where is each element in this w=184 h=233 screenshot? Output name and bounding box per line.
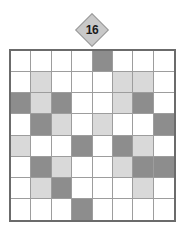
puzzle-container: 16 [0,0,184,233]
grid-cell[interactable] [72,114,92,135]
grid-cell[interactable] [11,51,31,72]
grid-cell[interactable] [93,114,113,135]
grid-cell[interactable] [133,136,153,157]
grid-cell[interactable] [31,178,51,199]
grid-cell[interactable] [113,93,133,114]
grid-cell[interactable] [52,51,72,72]
grid-cell[interactable] [72,199,92,220]
grid-cell[interactable] [93,51,113,72]
grid-cell[interactable] [31,93,51,114]
clue-marker-diamond: 16 [76,14,108,46]
grid-cell[interactable] [72,157,92,178]
grid-cell[interactable] [11,157,31,178]
grid-cells [11,51,174,220]
grid-cell[interactable] [154,93,174,114]
grid-cell[interactable] [31,72,51,93]
grid-cell[interactable] [31,114,51,135]
grid-cell[interactable] [31,136,51,157]
grid-cell[interactable] [93,93,113,114]
grid-cell[interactable] [154,114,174,135]
grid-cell[interactable] [113,72,133,93]
grid-cell[interactable] [72,72,92,93]
grid-cell[interactable] [154,199,174,220]
grid-cell[interactable] [133,93,153,114]
grid-cell[interactable] [154,72,174,93]
grid-cell[interactable] [133,72,153,93]
grid-cell[interactable] [72,136,92,157]
grid-cell[interactable] [113,199,133,220]
grid-cell[interactable] [113,114,133,135]
grid-cell[interactable] [133,157,153,178]
grid-cell[interactable] [154,157,174,178]
grid-cell[interactable] [11,114,31,135]
clue-value-label: 16 [76,14,108,46]
grid-cell[interactable] [52,114,72,135]
grid-cell[interactable] [113,51,133,72]
grid-cell[interactable] [52,157,72,178]
grid-cell[interactable] [113,178,133,199]
grid-cell[interactable] [31,157,51,178]
grid-cell[interactable] [52,72,72,93]
grid-cell[interactable] [133,51,153,72]
grid-cell[interactable] [72,93,92,114]
grid-cell[interactable] [72,51,92,72]
grid-cell[interactable] [31,199,51,220]
grid-cell[interactable] [72,178,92,199]
grid-cell[interactable] [93,178,113,199]
grid-cell[interactable] [113,136,133,157]
puzzle-grid [9,49,176,222]
grid-cell[interactable] [52,136,72,157]
grid-cell[interactable] [154,178,174,199]
grid-cell[interactable] [133,178,153,199]
grid-cell[interactable] [133,114,153,135]
grid-cell[interactable] [52,199,72,220]
grid-cell[interactable] [52,178,72,199]
grid-cell[interactable] [11,93,31,114]
grid-cell[interactable] [93,199,113,220]
grid-cell[interactable] [93,72,113,93]
grid-cell[interactable] [113,157,133,178]
grid-cell[interactable] [31,51,51,72]
grid-cell[interactable] [93,136,113,157]
grid-cell[interactable] [11,178,31,199]
grid-cell[interactable] [154,51,174,72]
grid-cell[interactable] [52,93,72,114]
grid-cell[interactable] [11,199,31,220]
grid-cell[interactable] [11,136,31,157]
grid-cell[interactable] [154,136,174,157]
grid-cell[interactable] [133,199,153,220]
grid-cell[interactable] [93,157,113,178]
grid-cell[interactable] [11,72,31,93]
